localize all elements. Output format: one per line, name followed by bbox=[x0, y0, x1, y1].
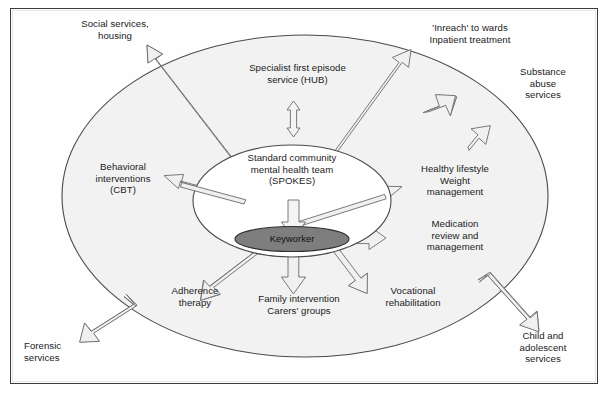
node-behavioral-cbt: Behavioral interventions (CBT) bbox=[68, 161, 178, 196]
node-substance-abuse: Substance abuse services bbox=[498, 66, 588, 101]
keyworker-label: Keyworker bbox=[252, 233, 332, 245]
hub-line3: (SPOKES) bbox=[269, 175, 315, 186]
node-specialist-first-episode: Specialist first episode service (HUB) bbox=[225, 62, 370, 85]
node-medication-review: Medication review and management bbox=[401, 218, 509, 253]
node-inreach-inpatient: 'Inreach' to wards Inpatient treatment bbox=[400, 22, 540, 45]
node-child-adolescent: Child and adolescent services bbox=[500, 330, 586, 365]
node-adherence-therapy: Adherence therapy bbox=[150, 285, 240, 308]
figure-container: Standard community mental health team (S… bbox=[0, 0, 611, 399]
hub-line1: Standard community bbox=[248, 152, 337, 163]
node-social-services: Social services, housing bbox=[50, 18, 180, 41]
node-forensic-services: Forensic services bbox=[24, 340, 104, 363]
node-family-intervention: Family intervention Carers' groups bbox=[236, 293, 362, 316]
node-healthy-lifestyle: Healthy lifestyle Weight management bbox=[401, 163, 509, 198]
hub-label: Standard community mental health team (S… bbox=[222, 152, 362, 187]
hub-line2: mental health team bbox=[251, 164, 334, 175]
node-vocational-rehab: Vocational rehabilitation bbox=[363, 285, 463, 308]
